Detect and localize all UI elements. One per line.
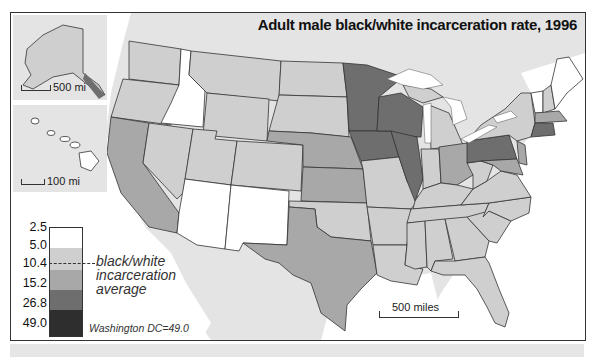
- alaska-scale-label: 500 mi: [53, 81, 86, 93]
- state-indiana: [421, 149, 441, 189]
- map-title: Adult male black/white incarceration rat…: [258, 16, 577, 33]
- alaska-inset: 500 mi: [13, 15, 107, 100]
- alaska-scale: 500 mi: [21, 81, 86, 93]
- hawaii-scale: 100 mi: [21, 175, 80, 187]
- average-dashed-line: [49, 263, 95, 264]
- state-connecticut: [531, 123, 555, 137]
- legend-swatch-3: [50, 270, 82, 290]
- dc-note: Washington DC=49.0: [89, 322, 189, 334]
- legend-swatch-2: [50, 248, 82, 270]
- legend-break: 2.5: [30, 221, 47, 234]
- state-mississippi: [405, 221, 427, 269]
- legend-swatch-4: [50, 290, 82, 310]
- legend-swatch-1: [50, 228, 82, 248]
- legend-break: 10.4: [23, 257, 47, 270]
- legend-swatches: [49, 227, 83, 337]
- legend-swatch-5: [50, 310, 82, 336]
- legend-break: 5.0: [30, 239, 47, 252]
- state-south-dakota: [269, 95, 349, 137]
- state-washington: [129, 41, 181, 85]
- scale-bar: [21, 85, 51, 91]
- legend-break: 15.2: [23, 277, 47, 290]
- state-north-dakota: [279, 61, 347, 97]
- legend-break: 49.0: [23, 317, 47, 330]
- state-new-mexico: [225, 185, 289, 251]
- scale-bar: [21, 179, 45, 185]
- average-label: black/white incarceration average: [96, 254, 176, 296]
- main-scale: 500 miles: [379, 308, 459, 320]
- state-arkansas: [367, 207, 411, 245]
- scale-bar: 500 miles: [379, 311, 459, 318]
- hawaii-scale-label: 100 mi: [47, 175, 80, 187]
- main-scale-label: 500 miles: [392, 301, 439, 313]
- legend: 2.5 5.0 10.4 15.2 26.8 49.0 black/white …: [13, 221, 203, 339]
- hawaii-inset: 100 mi: [13, 105, 107, 192]
- map-frame: Adult male black/white incarceration rat…: [10, 12, 586, 341]
- state-colorado: [231, 141, 303, 191]
- state-kansas: [301, 167, 367, 203]
- bottom-strip: [10, 344, 584, 357]
- legend-break: 26.8: [23, 297, 47, 310]
